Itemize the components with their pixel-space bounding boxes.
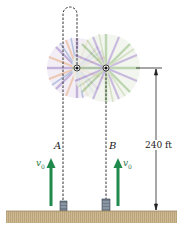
ground	[6, 211, 177, 223]
launch-tube-a	[60, 201, 67, 212]
burst-center-a-icon	[74, 65, 80, 71]
velocity-a-subscript: 0	[41, 163, 45, 170]
burst-center-b-icon	[103, 65, 109, 71]
label-path-b: B	[109, 140, 116, 151]
label-path-a: A	[54, 140, 61, 151]
height-dimension-line	[136, 68, 162, 210]
velocity-arrow-a-icon	[47, 158, 56, 206]
launch-tube-b	[102, 199, 110, 212]
label-height: 240 ft	[144, 140, 173, 150]
velocity-arrow-b-icon	[114, 158, 123, 206]
trajectory-a-dashed-line	[63, 7, 77, 204]
label-velocity-a: v0	[36, 158, 45, 170]
velocity-b-subscript: 0	[128, 163, 132, 170]
label-velocity-b: v0	[123, 158, 132, 170]
fireworks-diagram	[0, 0, 177, 226]
